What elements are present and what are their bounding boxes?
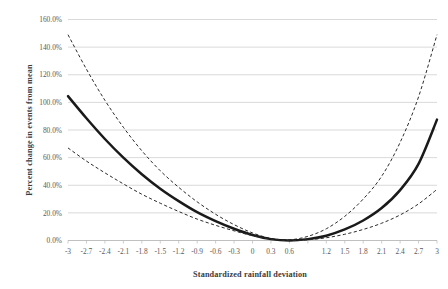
x-tick-label: 1.5: [340, 247, 350, 256]
y-tick-label: 80.0%: [43, 126, 62, 135]
x-tick-labels-group: -3-2.7-2.4-2.1-1.8-1.5-1.2-0.9-0.6-0.300…: [65, 247, 439, 256]
x-tick-label: -2.4: [99, 247, 111, 256]
y-tick-label: 0.0%: [47, 236, 62, 245]
chart-container: 0.0%20.0%40.0%60.0%80.0%100.0%120.0%140.…: [0, 0, 448, 289]
chart-plot: 0.0%20.0%40.0%60.0%80.0%100.0%120.0%140.…: [0, 0, 448, 289]
y-tick-label: 20.0%: [43, 209, 62, 218]
y-tick-label: 40.0%: [43, 181, 62, 190]
x-tick-label: 2.4: [395, 247, 405, 256]
y-tick-label: 120.0%: [39, 70, 62, 79]
y-tick-label: 160.0%: [39, 15, 62, 24]
x-tick-label: -0.9: [191, 247, 203, 256]
x-tick-label: -2.7: [81, 247, 93, 256]
x-tick-label: 0.6: [285, 247, 295, 256]
x-tick-label: -3: [65, 247, 71, 256]
x-tick-label: -0.3: [228, 247, 240, 256]
y-tick-label: 60.0%: [43, 153, 62, 162]
x-tick-label: 2.7: [414, 247, 424, 256]
series-line: [68, 148, 437, 241]
x-tick-label: -1.2: [173, 247, 185, 256]
x-tick-label: 1.2: [322, 247, 332, 256]
tick-marks-group: [68, 241, 437, 244]
x-tick-label: -2.1: [117, 247, 129, 256]
x-tick-label: -1.5: [154, 247, 166, 256]
x-tick-label: 0.3: [266, 247, 276, 256]
x-tick-label: 0: [251, 247, 255, 256]
x-tick-label: -0.6: [210, 247, 222, 256]
x-tick-label: 2.1: [377, 247, 387, 256]
series-line: [68, 96, 437, 240]
series-group: [68, 35, 437, 241]
y-tick-label: 100.0%: [39, 98, 62, 107]
x-tick-label: -1.8: [136, 247, 148, 256]
y-tick-labels-group: 0.0%20.0%40.0%60.0%80.0%100.0%120.0%140.…: [39, 15, 62, 245]
x-tick-label: 3: [435, 247, 439, 256]
y-tick-label: 140.0%: [39, 43, 62, 52]
y-axis-title: Percent change in events from mean: [25, 64, 34, 196]
x-tick-label: 1.8: [359, 247, 369, 256]
x-axis-title: Standardized rainfall deviation: [193, 270, 307, 279]
